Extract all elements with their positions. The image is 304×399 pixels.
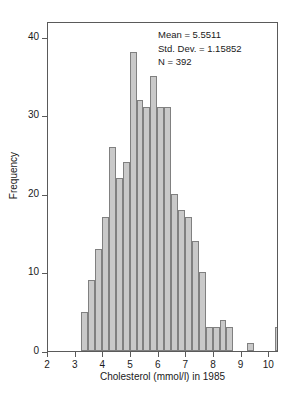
- y-tick-label: 20: [28, 188, 39, 199]
- x-tick-mark: [102, 352, 103, 357]
- histogram-bar: [206, 327, 213, 351]
- bars-layer: [48, 23, 277, 351]
- histogram-bar: [164, 107, 171, 351]
- histogram-bar: [88, 280, 95, 351]
- x-tick-mark: [241, 352, 242, 357]
- y-tick-label: 30: [28, 109, 39, 120]
- y-tick-label: 10: [28, 266, 39, 277]
- x-tick-mark: [158, 352, 159, 357]
- histogram-bar: [226, 327, 233, 351]
- x-tick-label: 5: [120, 359, 140, 370]
- histogram-bar: [247, 343, 254, 351]
- histogram-bar: [102, 217, 109, 351]
- histogram-bar: [213, 327, 220, 351]
- histogram-bar: [275, 327, 278, 351]
- stats-mean: Mean = 5.5511: [158, 28, 242, 42]
- x-tick-label: 2: [37, 359, 57, 370]
- histogram-bar: [123, 162, 130, 351]
- y-axis-title: Frequency: [8, 116, 19, 236]
- stats-n: N = 392: [158, 55, 242, 69]
- x-tick-label: 9: [231, 359, 251, 370]
- y-tick-label: 40: [28, 31, 39, 42]
- plot-area: [47, 22, 278, 352]
- x-tick-mark: [213, 352, 214, 357]
- histogram-bar: [220, 320, 227, 351]
- histogram-bar: [157, 107, 164, 351]
- histogram-bar: [150, 76, 157, 351]
- x-tick-label: 4: [92, 359, 112, 370]
- histogram-bar: [116, 178, 123, 351]
- histogram-bar: [178, 210, 185, 351]
- x-tick-label: 10: [258, 359, 278, 370]
- histogram-bar: [185, 217, 192, 351]
- histogram-bar: [109, 147, 116, 351]
- histogram-bar: [192, 241, 199, 351]
- stats-annotation: Mean = 5.5511 Std. Dev. = 1.15852 N = 39…: [158, 28, 242, 69]
- y-axis-tick: 10: [0, 273, 47, 274]
- y-axis-tick: 40: [0, 38, 47, 39]
- stats-stddev: Std. Dev. = 1.15852: [158, 42, 242, 56]
- x-tick-label: 3: [65, 359, 85, 370]
- x-tick-label: 8: [203, 359, 223, 370]
- histogram-bar: [137, 100, 144, 351]
- y-axis-tick: 0: [0, 352, 47, 353]
- x-tick-mark: [75, 352, 76, 357]
- x-tick-label: 6: [148, 359, 168, 370]
- histogram-bar: [95, 249, 102, 351]
- histogram-bar: [199, 272, 206, 351]
- x-axis-title: Cholesterol (mmol/l) in 1985: [47, 371, 278, 382]
- x-tick-mark: [185, 352, 186, 357]
- y-tick-label: 0: [33, 345, 39, 356]
- histogram-figure: 010203040 2345678910 Mean = 5.5511 Std. …: [0, 0, 304, 399]
- x-tick-mark: [47, 352, 48, 357]
- x-tick-mark: [268, 352, 269, 357]
- x-tick-mark: [130, 352, 131, 357]
- histogram-bar: [171, 194, 178, 351]
- histogram-bar: [81, 312, 88, 351]
- x-tick-label: 7: [175, 359, 195, 370]
- histogram-bar: [130, 52, 137, 351]
- histogram-bar: [143, 107, 150, 351]
